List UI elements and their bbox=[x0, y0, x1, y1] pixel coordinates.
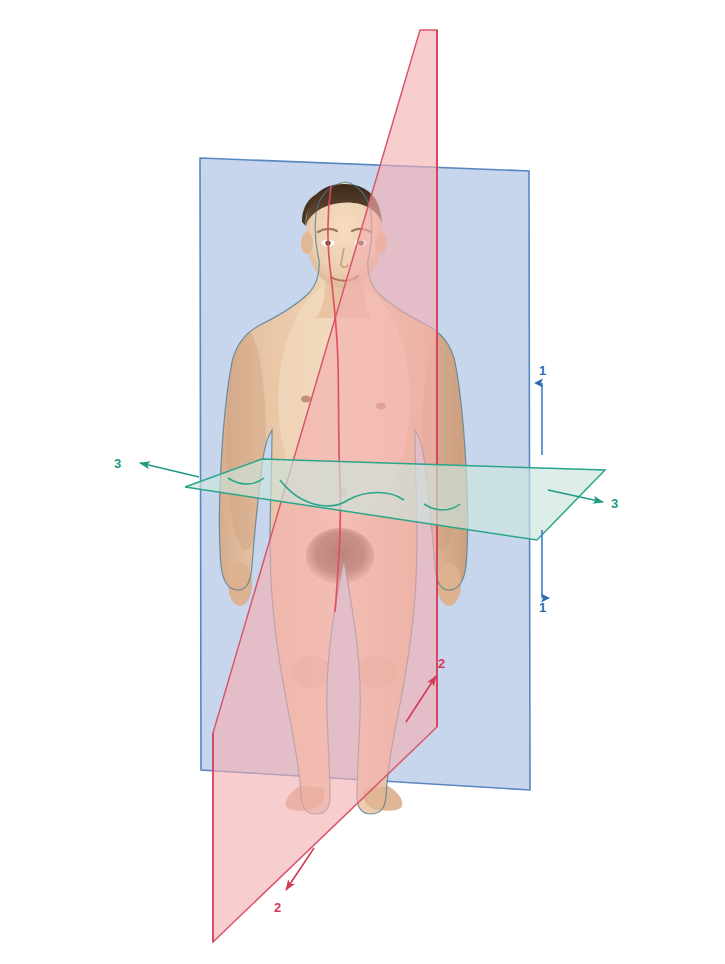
callout-1-up-label: 1 bbox=[539, 363, 546, 378]
left-nipple bbox=[301, 396, 311, 403]
figure-page: 1 1 3 3 2 2 bbox=[0, 0, 725, 964]
left-ear bbox=[301, 232, 313, 254]
callout-2-upper-label: 2 bbox=[438, 656, 445, 671]
anatomical-planes-figure: 1 1 3 3 2 2 bbox=[0, 0, 725, 964]
right-hand bbox=[437, 562, 461, 606]
callout-2-lower-label: 2 bbox=[274, 900, 281, 915]
callout-3-right-label: 3 bbox=[611, 496, 618, 511]
callout-1-down-label: 1 bbox=[539, 600, 546, 615]
callout-3-left-label: 3 bbox=[114, 456, 121, 471]
